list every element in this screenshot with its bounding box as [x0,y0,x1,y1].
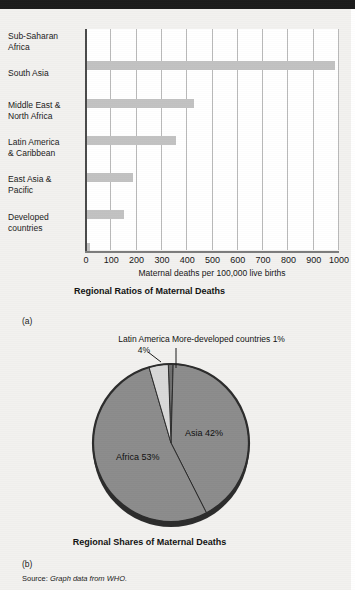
source-note: Source: Graph data from WHO. [22,574,127,583]
figure-b-caption: Regional Shares of Maternal Deaths [0,537,327,547]
panel-letter-b: (b) [22,559,32,569]
pie-chart [0,0,355,590]
source-label: Source: [22,574,48,583]
callout-line-latin-america [148,352,161,362]
figure-page: Sub-Saharan Africa South Asia Middle Eas… [0,0,355,590]
source-body: Graph data from WHO. [50,574,127,583]
